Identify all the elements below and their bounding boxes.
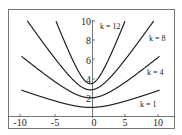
x-tick-label: -10 <box>13 117 26 128</box>
x-tick-label: -5 <box>51 117 59 128</box>
y-tick-label: 10 <box>81 16 91 27</box>
chart: 10 8 6 4 2 -10 -5 0 5 10 k = 12 k = 8 k … <box>0 0 182 135</box>
x-tick-label: 10 <box>153 117 163 128</box>
y-tick-label: 8 <box>86 35 91 46</box>
y-tick-label: 6 <box>86 55 91 66</box>
curve-label-k12: k = 12 <box>100 22 121 31</box>
curve-label-k8: k = 8 <box>149 34 166 43</box>
x-tick-label: 0 <box>92 117 97 128</box>
y-tick-label: 2 <box>86 93 91 104</box>
x-tick-label: 5 <box>123 117 128 128</box>
curve-label-k4: k = 4 <box>147 68 164 77</box>
curve-label-k1: k = 1 <box>140 100 157 109</box>
